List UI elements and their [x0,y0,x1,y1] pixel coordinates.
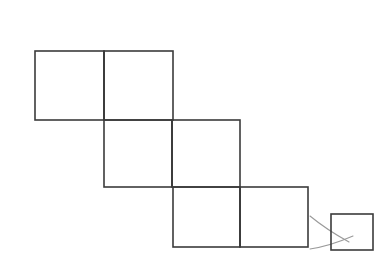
small-square [331,214,373,250]
row3-cell-right [240,187,308,247]
row3-cell-left [173,187,240,247]
row2-cell-right [172,120,240,187]
row-3-group [173,187,308,247]
connector-upper-line [310,216,349,242]
row1-cell-left [35,51,104,120]
row-1-group [35,51,173,120]
row-2-group [104,120,240,187]
cascading-squares-figure [0,0,386,255]
row2-cell-left [104,120,172,187]
diagram-canvas [0,0,386,255]
row1-cell-right [104,51,173,120]
small-square-group [331,214,373,250]
